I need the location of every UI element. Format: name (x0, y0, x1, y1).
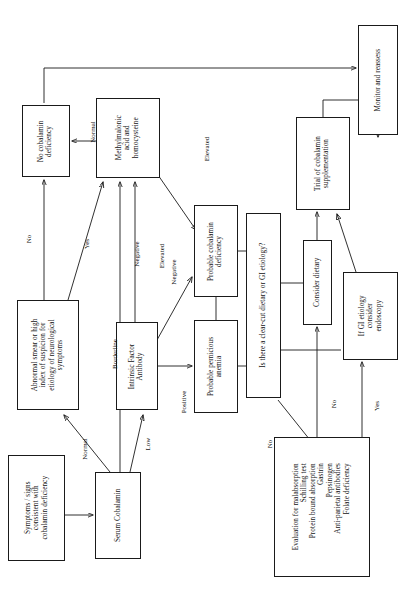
node-gi-etiology-endoscopy[interactable]: If GI etiology consider endoscopy (343, 272, 398, 360)
edge-label-normal-serum: Normal (81, 438, 89, 459)
edge-label-no-clearcut: No (266, 440, 274, 449)
edge-mma-elevated (158, 175, 196, 230)
edge-nocd-to-monitor (44, 68, 356, 103)
edge-label-negative-if-mma: Negative (133, 241, 141, 266)
edge-label-borderline-serum: Borderline (111, 339, 119, 369)
edge-label-no-eval-consider: No (330, 400, 338, 409)
edge-serum-low (130, 415, 143, 472)
edge-label-yes-eval-endoscopy: Yes (373, 401, 381, 411)
node-clear-cut-etiology-label: Is there a clear-cut dietary or GI etiol… (259, 243, 267, 368)
node-intrinsic-factor-label: Intrinsic Factor Antibody (129, 343, 146, 389)
edge-label-elevated-mma-right: Elevated (203, 137, 211, 162)
node-mma-homocysteine[interactable]: Methylmalonic acid and homocysteine (96, 98, 160, 178)
node-symptoms-label: Symptoms / signs consistent with cobalam… (24, 476, 49, 540)
edge-label-yes-abnormal: Yes (83, 239, 91, 249)
node-trial-supplementation-label: Trial of cobalamin supplementation (315, 136, 332, 191)
edge-if-negative-probable (157, 277, 192, 340)
node-gi-etiology-endoscopy-label: If GI etiology consider endoscopy (358, 296, 383, 337)
node-probable-cobalamin-deficiency-label: Probable cobalamin deficiency (208, 221, 225, 280)
node-monitor-reassess[interactable]: Monitor and reassess (358, 25, 398, 135)
node-abnormal-smear-label: Abnormal smear or high index of suspicio… (31, 319, 65, 392)
node-no-cobalamin-deficiency[interactable]: No cobalamin deficiency (22, 105, 70, 177)
node-serum-cobalamin-label: Serum Cobalamin (114, 489, 122, 543)
node-trial-supplementation[interactable]: Trial of cobalamin supplementation (296, 117, 350, 210)
node-probable-pernicious-anemia-label: Probable pernicious anemia (208, 337, 225, 396)
node-abnormal-smear[interactable]: Abnormal smear or high index of suspicio… (17, 300, 79, 410)
node-serum-cobalamin[interactable]: Serum Cobalamin (95, 472, 141, 559)
node-monitor-reassess-label: Monitor and reassess (374, 49, 382, 112)
node-intrinsic-factor[interactable]: Intrinsic Factor Antibody (116, 322, 158, 410)
node-consider-dietary[interactable]: Consider dietary (303, 240, 332, 325)
edge-label-normal-mma: Normal (89, 121, 97, 142)
edge-label-positive-if: Positive (180, 391, 188, 414)
edge-label-negative-if-probable: Negative (170, 259, 178, 284)
flowchart-canvas: Symptoms / signs consistent with cobalam… (0, 0, 404, 601)
node-probable-cobalamin-deficiency[interactable]: Probable cobalamin deficiency (194, 205, 238, 297)
edge-label-no-abnormal: No (25, 235, 33, 244)
node-clear-cut-etiology[interactable]: Is there a clear-cut dietary or GI etiol… (246, 213, 281, 398)
node-symptoms[interactable]: Symptoms / signs consistent with cobalam… (8, 455, 65, 561)
edge-gi-to-trial (337, 214, 356, 272)
node-mma-homocysteine-label: Methylmalonic acid and homocysteine (115, 115, 140, 160)
node-evaluation-malabsorption-label: Evaluation for malabsorption Schilling t… (292, 463, 351, 550)
node-no-cobalamin-deficiency-label: No cobalamin deficiency (38, 120, 55, 162)
edge-label-low-serum: Low (144, 438, 152, 451)
node-probable-pernicious-anemia[interactable]: Probable pernicious anemia (194, 320, 238, 413)
node-consider-dietary-label: Consider dietary (313, 258, 321, 307)
node-evaluation-malabsorption[interactable]: Evaluation for malabsorption Schilling t… (274, 437, 370, 577)
edge-label-elevated-mma-left: Elevated (158, 244, 166, 269)
